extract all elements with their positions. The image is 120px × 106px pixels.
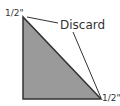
discard-label: Discard [60, 18, 105, 32]
top-left-measurement-label: 1/2" [5, 8, 24, 18]
discard-leader-line-top [27, 17, 58, 23]
triangle-cut-diagram: 1/2" Discard 1/2" [0, 0, 120, 106]
bottom-right-measurement-label: 1/2" [102, 93, 120, 103]
